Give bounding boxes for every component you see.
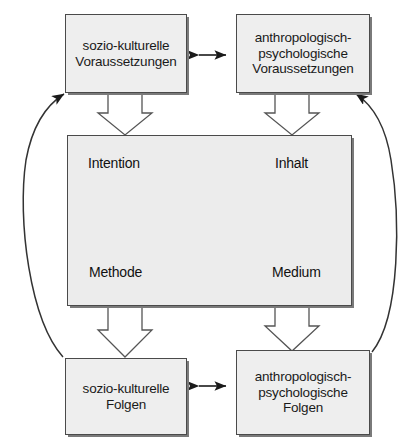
node-anthropologisch-psychologische-folgen[interactable]: anthropologisch- psychologische Folgen (236, 350, 370, 435)
node-label-line-2: psychologische (255, 385, 352, 401)
node-label-group: sozio-kulturelle Voraussetzungen (72, 38, 179, 70)
node-label-line-1: anthropologisch- (255, 369, 352, 385)
node-label-group: sozio-kulturelle Folgen (80, 381, 173, 413)
block-arrow-center-to-bottom-left (98, 306, 152, 357)
node-entscheidungsfelder[interactable]: Intention Inhalt Methode Medium (67, 135, 352, 306)
block-arrow-center-to-bottom-right (265, 306, 319, 351)
node-label-line-3: Voraussetzungen (252, 61, 353, 77)
center-label-intention: Intention (88, 155, 140, 172)
node-label-line-2: psychologische (252, 46, 353, 62)
node-label-group: anthropologisch- psychologische Vorausse… (249, 30, 356, 78)
node-label-line-1: anthropologisch- (252, 30, 353, 46)
block-arrow-top-right-to-center (265, 92, 319, 135)
center-label-inhalt: Inhalt (275, 155, 308, 172)
center-label-methode: Methode (89, 264, 142, 281)
node-label-group: anthropologisch- psychologische Folgen (252, 369, 355, 417)
curved-feedback-arrow-left (23, 94, 64, 357)
node-label-line-2: Folgen (83, 397, 170, 413)
node-label-line-2: Voraussetzungen (75, 54, 176, 70)
curved-feedback-arrow-right (356, 94, 397, 352)
node-sozio-kulturelle-folgen[interactable]: sozio-kulturelle Folgen (65, 358, 187, 435)
diagram-canvas: sozio-kulturelle Voraussetzungen anthrop… (0, 0, 414, 441)
node-anthropologisch-psychologische-voraussetzungen[interactable]: anthropologisch- psychologische Vorausse… (236, 14, 370, 93)
node-label-line-1: sozio-kulturelle (75, 38, 176, 54)
node-sozio-kulturelle-voraussetzungen[interactable]: sozio-kulturelle Voraussetzungen (65, 14, 187, 93)
node-label-line-3: Folgen (255, 400, 352, 416)
block-arrow-top-left-to-center (98, 92, 152, 135)
center-label-medium: Medium (272, 264, 321, 281)
node-label-line-1: sozio-kulturelle (83, 381, 170, 397)
